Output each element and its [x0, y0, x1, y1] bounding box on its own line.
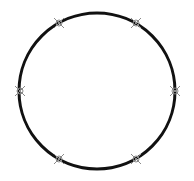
circle-diagram [0, 0, 194, 181]
marker-top-right-icon [131, 18, 141, 28]
marker-right-icon [170, 86, 180, 96]
marker-left-icon [15, 86, 25, 96]
marker-bottom-right-icon [131, 154, 141, 164]
marker-bottom-left-icon [54, 154, 64, 164]
main-circle [19, 13, 175, 169]
marker-top-left-icon [54, 18, 64, 28]
